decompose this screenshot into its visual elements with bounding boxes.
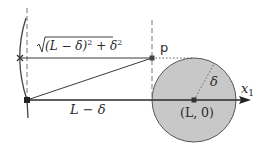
hypotenuse-exp2: 2 xyxy=(117,38,122,47)
axis-label-sub: 1 xyxy=(248,88,254,98)
base-label: L − δ xyxy=(69,102,106,117)
svg-text:(L − δ)2 + δ2: (L − δ)2 + δ2 xyxy=(45,38,122,53)
diagram-canvas: (L − δ)2 + δ2 L − δ p δ (L, 0) x1 xyxy=(0,0,267,153)
origin-marker xyxy=(24,97,30,103)
point-p-marker xyxy=(150,56,155,61)
center-marker xyxy=(192,98,197,103)
hypotenuse-label: (L − δ)2 + δ2 xyxy=(37,37,122,53)
center-label: (L, 0) xyxy=(180,105,214,120)
radius-label: δ xyxy=(210,74,218,89)
hypotenuse-radicand: (L − δ) xyxy=(45,39,88,53)
hypotenuse-line xyxy=(27,58,152,100)
x1-axis-label: x1 xyxy=(241,81,254,98)
point-p-label: p xyxy=(160,40,168,55)
hypotenuse-plus: + δ xyxy=(92,39,117,53)
